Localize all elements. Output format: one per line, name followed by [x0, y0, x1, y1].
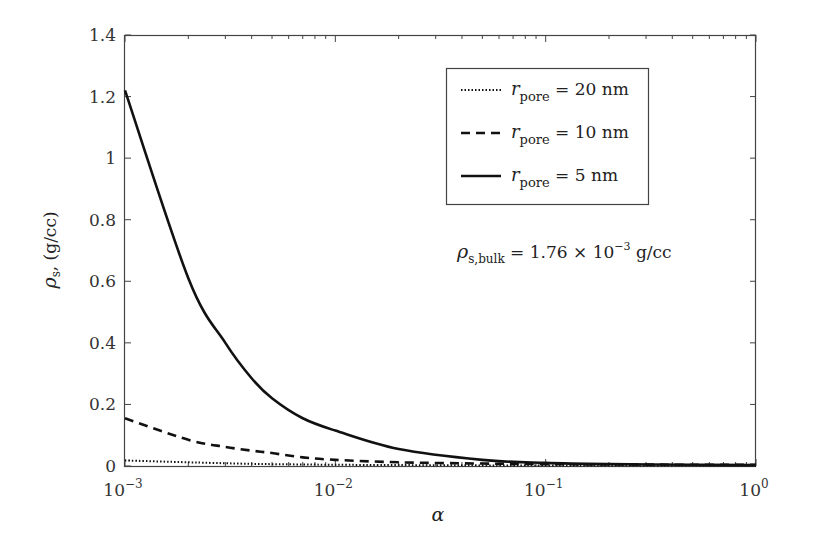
- y-tick-label: 1: [105, 148, 116, 168]
- x-tick-label: 10−1: [524, 477, 563, 500]
- x-axis-ticks: 10−310−210−1100: [103, 35, 768, 500]
- x-axis-label: α: [432, 503, 445, 525]
- chart: 00.20.40.60.811.21.4 10−310−210−1100 ρs,…: [0, 0, 813, 547]
- bulk-density-annotation: ρs,bulk = 1.76 × 10−3 g/cc: [456, 240, 672, 266]
- series-line-dashed: [125, 418, 756, 465]
- y-tick-label: 1.2: [89, 87, 116, 107]
- x-tick-label: 10−2: [314, 477, 353, 500]
- y-tick-label: 0.2: [89, 394, 116, 414]
- y-tick-label: 0.4: [89, 333, 116, 353]
- y-tick-label: 0.8: [89, 210, 116, 230]
- series-line-solid: [125, 90, 756, 465]
- series-lines: [125, 90, 756, 465]
- legend: rpore = 20 nmrpore = 10 nmrpore = 5 nm: [447, 69, 649, 205]
- y-tick-label: 1.4: [89, 25, 116, 45]
- y-tick-label: 0: [105, 456, 116, 476]
- x-tick-label: 10−3: [103, 477, 142, 500]
- y-axis-label: ρs, (g/cc): [38, 211, 63, 289]
- y-tick-label: 0.6: [89, 271, 116, 291]
- x-tick-label: 100: [739, 477, 768, 500]
